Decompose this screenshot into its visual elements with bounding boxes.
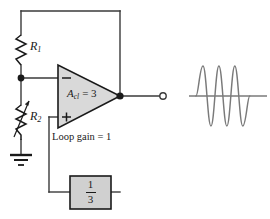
opamp-gain-label: Acl= 3 — [67, 88, 97, 101]
resistor-r1 — [16, 35, 26, 65]
resistor-r2-label: R2 — [30, 110, 41, 124]
opamp-gain-subscript: cl — [74, 92, 79, 101]
circuit-diagram: R1 R2 Acl= 3 Loop gain = 1 1 3 — [0, 0, 270, 219]
opamp-gain-value: = 3 — [82, 87, 96, 99]
fraction-denominator: 3 — [88, 194, 94, 206]
fraction-numerator: 1 — [88, 179, 94, 191]
resistor-r1-label: R1 — [30, 40, 41, 54]
output-terminal-icon — [160, 93, 166, 99]
loop-gain-label: Loop gain = 1 — [52, 132, 111, 143]
opamp-gain-letter: A — [67, 87, 74, 99]
resistor-r2-subscript: 2 — [37, 115, 41, 124]
junction-dot-inverting-node — [18, 75, 25, 82]
junction-dot-output-node — [116, 92, 123, 99]
resistor-r1-subscript: 1 — [37, 45, 41, 54]
feedback-block-fraction: 1 3 — [70, 176, 111, 209]
ground-icon — [10, 155, 32, 165]
